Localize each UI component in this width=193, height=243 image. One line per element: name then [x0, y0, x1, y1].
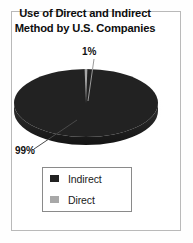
pie-chart: 1% 99% Indirect Direct: [0, 0, 170, 220]
legend-swatch-direct: [50, 196, 59, 203]
legend-item-direct[interactable]: Direct: [43, 189, 131, 210]
data-label-indirect: 99%: [15, 145, 35, 156]
figure-container: Use of Direct and Indirect Method by U.S…: [0, 0, 193, 243]
legend-item-indirect[interactable]: Indirect: [43, 168, 131, 189]
legend-label-indirect: Indirect: [68, 173, 102, 185]
legend-label-direct: Direct: [68, 194, 95, 206]
chart-legend: Indirect Direct: [42, 167, 132, 212]
legend-swatch-indirect: [50, 175, 59, 182]
data-label-direct: 1%: [82, 46, 96, 57]
